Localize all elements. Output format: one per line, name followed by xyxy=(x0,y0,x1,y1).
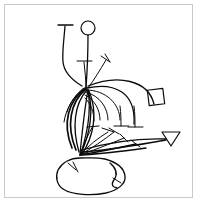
sketch-canvas xyxy=(0,0,199,206)
sketch-drawing xyxy=(0,0,199,206)
blob-hook-right xyxy=(110,163,117,188)
left-long-stem xyxy=(63,26,82,86)
chevron-stem xyxy=(88,60,106,88)
arc-fan-group xyxy=(85,80,154,124)
blob-tick-left-cap-icon xyxy=(73,162,78,172)
blob-group xyxy=(57,158,125,195)
bundle-group xyxy=(64,88,94,154)
inner-tbar-stem xyxy=(84,62,86,88)
circle-terminator-icon xyxy=(81,21,95,35)
diamond-icon xyxy=(141,82,172,113)
long-sweep-low xyxy=(82,139,166,150)
lower-spoke-group xyxy=(80,126,146,155)
tick-up-from-low-a-cap-icon xyxy=(87,126,99,127)
blob-outline xyxy=(57,158,125,195)
diamond-terminator-group xyxy=(141,82,172,113)
upper-stems-group xyxy=(58,21,110,88)
